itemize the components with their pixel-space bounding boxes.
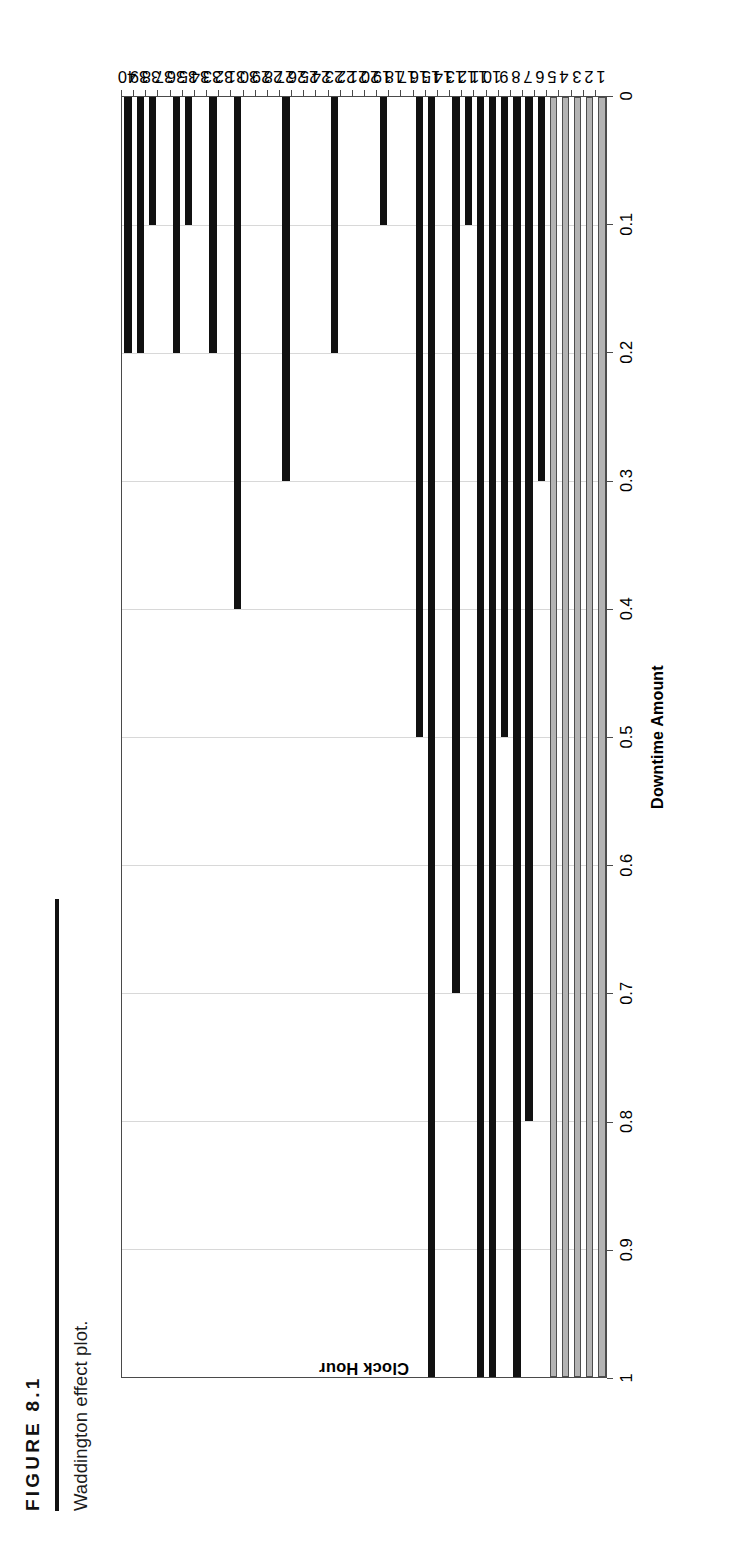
category-tick-mark (498, 90, 499, 96)
category-tick-mark (486, 90, 487, 96)
bar (428, 97, 435, 1377)
figure-container: FIGURE 8.1 Waddington effect plot. Downt… (0, 0, 753, 1545)
bar (501, 97, 508, 737)
category-tick-mark (121, 90, 122, 96)
category-tick-label: 7 (523, 67, 532, 86)
value-axis-tick-mark (607, 865, 613, 866)
category-tick-mark (182, 90, 183, 96)
bar-row (598, 97, 605, 1377)
category-axis-title: Clock Hour (319, 0, 409, 1378)
value-axis-tick-label: 0 (617, 91, 636, 100)
value-axis-tick-mark (607, 1122, 613, 1123)
bar (282, 97, 289, 481)
category-tick-label: 40 (118, 67, 136, 86)
category-tick-mark (534, 90, 535, 96)
bar (234, 97, 241, 609)
bar (185, 97, 192, 225)
bar-row (185, 97, 192, 1377)
category-tick-mark (145, 90, 146, 96)
category-tick-mark (157, 90, 158, 96)
category-tick-label: 3 (572, 67, 581, 86)
value-axis-tick-mark (607, 224, 613, 225)
bar (550, 97, 557, 1377)
value-axis-tick-label: 0.1 (617, 213, 636, 236)
bar (477, 97, 484, 1377)
category-tick-mark (194, 90, 195, 96)
category-tick-mark (328, 90, 329, 96)
bar (525, 97, 532, 1121)
category-tick-mark (255, 90, 256, 96)
value-axis-tick-label: 0.4 (617, 597, 636, 620)
bar (452, 97, 459, 993)
category-tick-mark (352, 90, 353, 96)
value-axis-tick-mark (607, 993, 613, 994)
category-tick-mark (218, 90, 219, 96)
category-axis-strip: 1234567891011121314151617181920212223242… (121, 40, 607, 96)
value-axis-tick-label: 0.7 (617, 982, 636, 1005)
category-tick-mark (558, 90, 559, 96)
bar-row (525, 97, 532, 1377)
category-tick-mark (170, 90, 171, 96)
bar-row (149, 97, 156, 1377)
category-tick-mark (243, 90, 244, 96)
category-tick-label: 1 (596, 67, 605, 86)
bar (173, 97, 180, 353)
bar-row (501, 97, 508, 1377)
value-axis-tick-strip: 10.90.80.70.60.50.40.30.20.10 (613, 96, 639, 1378)
bar (574, 97, 581, 1377)
category-tick-label: 4 (560, 67, 569, 86)
rotated-page-canvas: FIGURE 8.1 Waddington effect plot. Downt… (0, 0, 753, 1545)
category-tick-mark (364, 90, 365, 96)
category-tick-mark (437, 90, 438, 96)
bar (562, 97, 569, 1377)
value-axis-tick-label: 0.8 (617, 1110, 636, 1133)
category-tick-mark (522, 90, 523, 96)
bar-row (513, 97, 520, 1377)
bar (416, 97, 423, 737)
bar (513, 97, 520, 1377)
category-tick-mark (267, 90, 268, 96)
value-axis-tick-label: 1 (617, 1373, 636, 1382)
value-axis-tick-mark (607, 96, 613, 97)
value-axis-tick-mark (607, 352, 613, 353)
figure-caption-text: Waddington effect plot. (70, 871, 92, 1511)
bar-row (137, 97, 144, 1377)
category-tick-mark (279, 90, 280, 96)
category-tick-label: 6 (536, 67, 545, 86)
category-tick-mark (230, 90, 231, 96)
category-tick-mark (291, 90, 292, 96)
category-tick-mark (571, 90, 572, 96)
bar (149, 97, 156, 225)
value-axis-tick-label: 0.5 (617, 726, 636, 749)
category-tick-label: 8 (511, 67, 520, 86)
category-tick-mark (449, 90, 450, 96)
value-axis-tick-mark (607, 737, 613, 738)
value-axis-tick-label: 0.6 (617, 854, 636, 877)
category-tick-label: 2 (584, 67, 593, 86)
bar-row (489, 97, 496, 1377)
category-tick-mark (583, 90, 584, 96)
category-tick-mark (340, 90, 341, 96)
bar (209, 97, 216, 353)
bar-chart: Downtime Amount Clock Hour 10.90.80.70.6… (121, 40, 711, 1450)
category-tick-mark (546, 90, 547, 96)
figure-number-label: FIGURE 8.1 (22, 871, 44, 1511)
category-tick-mark (376, 90, 377, 96)
bar (489, 97, 496, 1377)
bar-row (586, 97, 593, 1377)
bar (598, 97, 605, 1377)
category-tick-mark (133, 90, 134, 96)
value-axis-tick-mark (607, 609, 613, 610)
bar-row (465, 97, 472, 1377)
bar-row (477, 97, 484, 1377)
value-axis-tick-mark (607, 1378, 613, 1379)
category-tick-mark (388, 90, 389, 96)
bar-row (209, 97, 216, 1377)
bar-row (428, 97, 435, 1377)
bar-row (234, 97, 241, 1377)
category-tick-mark (473, 90, 474, 96)
category-tick-mark (206, 90, 207, 96)
bar-row (124, 97, 131, 1377)
category-tick-mark (315, 90, 316, 96)
category-tick-mark (400, 90, 401, 96)
